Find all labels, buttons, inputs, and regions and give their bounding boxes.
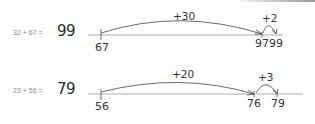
big-jump-label: +20 bbox=[172, 68, 194, 80]
start-label: 67 bbox=[95, 41, 109, 54]
mid-label: 97 bbox=[255, 37, 269, 50]
number-line-problem-1: 32 + 67 = 99 +30 +2 67 97 99 bbox=[0, 0, 315, 62]
start-label: 56 bbox=[95, 100, 109, 113]
big-jump-label: +30 bbox=[173, 10, 195, 22]
small-jump-label: +3 bbox=[258, 71, 273, 83]
number-line-1 bbox=[0, 0, 315, 62]
mid-label: 76 bbox=[247, 97, 261, 110]
number-line-problem-2: 23 + 56 = 79 +20 +3 56 76 79 bbox=[0, 62, 315, 124]
end-label: 79 bbox=[271, 97, 285, 110]
end-label: 99 bbox=[269, 37, 283, 50]
small-jump-label: +2 bbox=[262, 12, 277, 24]
